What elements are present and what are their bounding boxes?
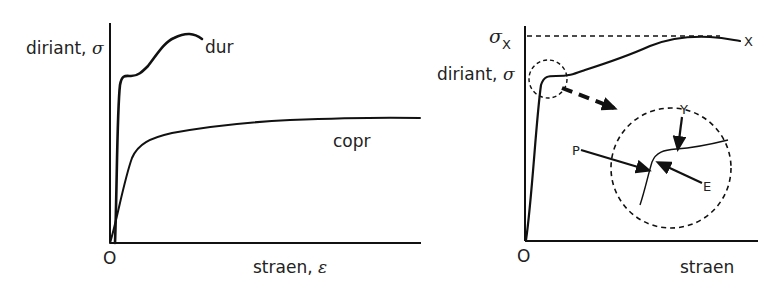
left-y-axis-label: diriant, σ <box>26 40 104 57</box>
figure-canvas <box>0 0 784 290</box>
right-x-axis-label: straen <box>680 259 734 276</box>
label-dur: dur <box>205 39 234 56</box>
label-point-e: E <box>703 180 711 193</box>
arrow-e <box>659 163 702 183</box>
label-point-p: P <box>572 144 580 157</box>
sigma-x-label: σX <box>489 27 511 46</box>
label-copr: copr <box>333 133 371 150</box>
left-origin-label: O <box>103 250 116 267</box>
sigma-symbol: σ <box>92 38 104 58</box>
curve-copr <box>110 118 420 243</box>
curve-dur <box>115 34 202 243</box>
arrow-y <box>678 117 682 148</box>
right-origin-label: O <box>517 248 530 265</box>
left-x-label-text: straen, <box>253 257 318 277</box>
curve-main <box>526 37 740 240</box>
epsilon-symbol: ε <box>318 257 327 277</box>
detail-curve <box>640 140 728 205</box>
sigma-x-symbol: σ <box>489 25 502 47</box>
arrow-p <box>581 150 648 170</box>
label-point-x: X <box>744 35 753 48</box>
sigma-symbol-right: σ <box>503 64 515 84</box>
left-chart <box>110 23 421 243</box>
right-y-label-text: diriant, <box>437 64 503 84</box>
label-point-y: Y <box>680 103 688 116</box>
zoom-source-circle <box>529 60 567 98</box>
left-y-label-text: diriant, <box>26 38 92 58</box>
right-y-axis-label: diriant, σ <box>437 66 515 83</box>
left-x-axis-label: straen, ε <box>253 259 327 276</box>
zoom-arrow <box>562 88 614 108</box>
right-chart <box>525 26 758 241</box>
sigma-x-subscript: X <box>502 37 511 52</box>
